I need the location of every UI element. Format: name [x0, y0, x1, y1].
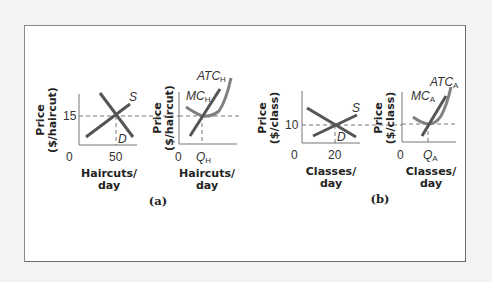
quantity-tick: 50 [109, 150, 123, 164]
quantity-tick: QA [423, 148, 438, 163]
demand-curve [307, 108, 356, 137]
price-tick: 15 [63, 109, 77, 123]
price-tick: 10 [285, 118, 299, 132]
y-axis-title-line2: ($/haircut) [46, 87, 59, 153]
origin-label: 0 [66, 150, 73, 164]
origin-label: 0 [175, 150, 182, 164]
demand-label: D [337, 130, 346, 144]
x-axis-title-line2: day [98, 179, 120, 192]
panel-label-b: (b) [371, 192, 390, 206]
y-axis-title-line2: ($/class) [384, 92, 397, 145]
mc-label: MCH [186, 89, 211, 104]
x-axis-title-line2: day [196, 179, 218, 192]
quantity-tick: QH [196, 150, 211, 165]
panel-a-firm-graph: MCH ATCH 0 QH Price ($/haircut) Haircuts… [151, 69, 240, 192]
x-axis-title-line2: day [420, 177, 442, 190]
y-axis-title-line2: ($/haircut) [163, 85, 176, 151]
panel-label-a: (a) [149, 194, 167, 208]
atc-label: ATCH [196, 69, 226, 84]
quantity-tick: 20 [328, 148, 342, 162]
origin-label: 0 [291, 148, 298, 162]
supply-label: S [352, 101, 360, 115]
panel-b-firm-graph: MCA ATCA 0 QA Price ($/class) Classes/ d… [372, 75, 459, 190]
supply-label: S [129, 90, 137, 104]
origin-label: 0 [397, 148, 404, 162]
y-axis-title-line2: ($/class) [268, 92, 281, 145]
atc-label: ATCA [429, 75, 459, 90]
x-axis-title-line2: day [320, 177, 342, 190]
mc-label: MCA [411, 89, 436, 104]
economics-diagram: S D 15 0 50 Price ($/haircut) Haircuts/ … [0, 0, 492, 282]
demand-label: D [118, 132, 127, 146]
